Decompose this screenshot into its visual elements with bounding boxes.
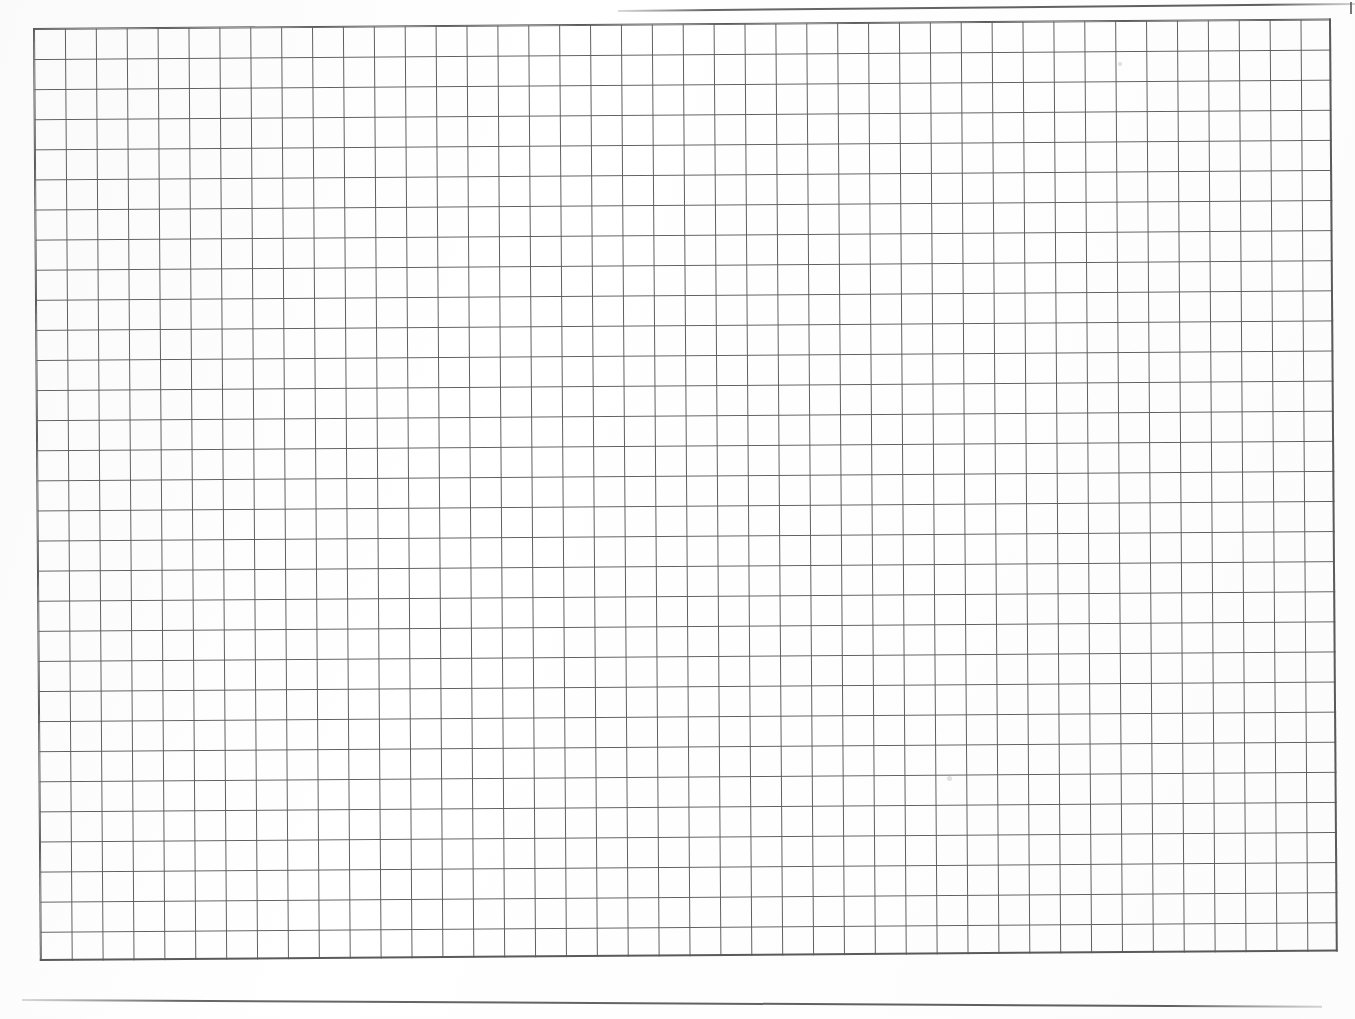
bottom-rule-line xyxy=(22,999,1322,1007)
graph-grid xyxy=(33,18,1338,961)
top-rule-end-tick xyxy=(1350,2,1352,14)
paper-speck xyxy=(947,776,952,781)
paper-speck xyxy=(1118,62,1122,66)
scanned-page xyxy=(0,0,1355,1019)
graph-grid-container xyxy=(33,18,1338,961)
top-rule-line xyxy=(618,3,1355,12)
